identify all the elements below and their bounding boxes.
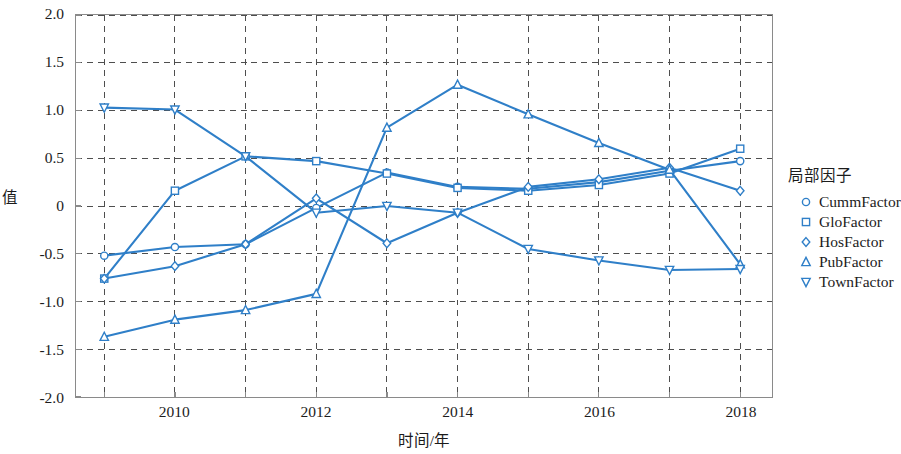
circle-marker-icon	[797, 193, 815, 211]
y-axis-title: 值	[2, 185, 18, 207]
x-tick-label: 2014	[428, 404, 488, 420]
x-tick-label: 2012	[286, 404, 346, 420]
legend-item-townfactor[interactable]: TownFactor	[788, 272, 899, 292]
y-tick-label: 1.5	[45, 54, 64, 70]
y-tick-label: 1.0	[45, 102, 64, 118]
legend-item-hosfactor[interactable]: HosFactor	[788, 232, 899, 252]
y-tick-label: 0	[56, 198, 64, 214]
legend-item-label: TownFactor	[819, 273, 894, 291]
y-tick-label: -2.0	[39, 390, 64, 406]
square-marker-icon	[797, 213, 815, 231]
x-tick-label: 2018	[711, 404, 771, 420]
y-tick-label: 0.5	[45, 150, 64, 166]
legend-item-label: GloFactor	[819, 213, 882, 231]
triangle-down-marker-icon	[797, 273, 815, 291]
legend-item-glofactor[interactable]: GloFactor	[788, 212, 899, 232]
legend-item-label: CummFactor	[819, 193, 901, 211]
plot-canvas	[76, 15, 772, 397]
series-TownFactor	[100, 104, 744, 275]
y-tick-label: -1.0	[39, 294, 64, 310]
legend-item-cummfactor[interactable]: CummFactor	[788, 192, 899, 212]
y-tick-label: 2.0	[45, 6, 64, 22]
plot-area	[75, 14, 773, 398]
legend-items: CummFactorGloFactorHosFactorPubFactorTow…	[788, 192, 899, 292]
x-axis-title: 时间/年	[75, 428, 773, 450]
y-tick-label: -0.5	[39, 246, 64, 262]
legend-item-pubfactor[interactable]: PubFactor	[788, 252, 899, 272]
legend-item-label: PubFactor	[819, 253, 883, 271]
diamond-marker-icon	[797, 233, 815, 251]
triangle-up-marker-icon	[797, 253, 815, 271]
x-tick-label: 2016	[569, 404, 629, 420]
x-tick-label: 2010	[144, 404, 204, 420]
legend-title: 局部因子	[788, 163, 899, 185]
y-axis-tick-labels: 2.01.51.00.50-0.5-1.0-1.5-2.0	[0, 0, 64, 454]
gridlines	[76, 15, 772, 397]
series-GloFactor	[101, 145, 744, 282]
legend-item-label: HosFactor	[819, 233, 884, 251]
legend: 局部因子 CummFactorGloFactorHosFactorPubFact…	[788, 163, 899, 292]
y-tick-label: -1.5	[39, 342, 64, 358]
